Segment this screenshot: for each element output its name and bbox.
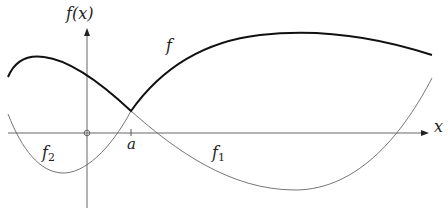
function-diagram: f(x) f f2 f1 a x	[0, 0, 448, 215]
x-axis-arrow-icon	[421, 130, 429, 136]
y-axis-arrow-icon	[84, 28, 90, 36]
curve-f	[8, 33, 432, 111]
label-f: f	[165, 36, 175, 55]
axes	[8, 28, 429, 208]
label-x: x	[434, 117, 443, 136]
label-fx: f(x)	[65, 4, 93, 23]
label-f2: f2	[41, 143, 55, 164]
label-f1: f1	[211, 143, 225, 164]
curve-f1	[131, 78, 432, 190]
curve-f2	[8, 111, 131, 173]
label-a: a	[127, 135, 136, 153]
